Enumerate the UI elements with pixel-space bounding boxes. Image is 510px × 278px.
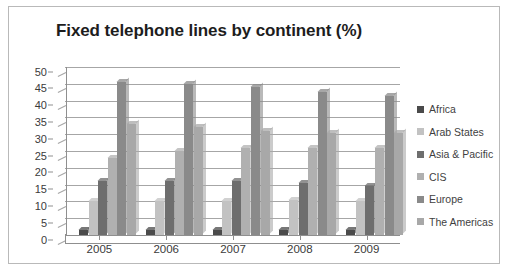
legend-swatch-icon xyxy=(417,218,424,225)
bar-face xyxy=(108,158,117,235)
legend-label: The Americas xyxy=(429,216,493,228)
bar-face xyxy=(175,151,184,235)
legend-label: Africa xyxy=(429,103,456,115)
bar-face xyxy=(146,230,155,235)
legend-item[interactable]: Arab States xyxy=(417,126,509,138)
y-tick-label: 25 xyxy=(13,150,47,162)
wall-segment xyxy=(58,122,67,127)
y-tick-mark xyxy=(48,205,53,206)
bar[interactable] xyxy=(289,200,298,235)
legend-item[interactable]: CIS xyxy=(417,171,509,183)
y-tick-mark xyxy=(48,239,53,240)
bar-group xyxy=(266,67,333,235)
bar[interactable] xyxy=(346,230,355,235)
y-tick-label: 20 xyxy=(13,166,47,178)
y-tick-mark xyxy=(48,71,53,72)
y-tick-mark xyxy=(48,155,53,156)
x-tick-mark xyxy=(300,235,301,240)
chart-title: Fixed telephone lines by continent (%) xyxy=(9,21,409,41)
bar[interactable] xyxy=(175,151,184,235)
chart-legend: AfricaArab StatesAsia & PacificCISEurope… xyxy=(417,103,509,238)
x-tick-label: 2007 xyxy=(220,243,246,255)
bar-face xyxy=(232,181,241,235)
y-tick-label: 5 xyxy=(13,217,47,229)
legend-swatch-icon xyxy=(417,196,424,203)
bar-face xyxy=(289,200,298,235)
bar-group xyxy=(200,67,267,235)
y-tick-label: 50 xyxy=(13,66,47,78)
legend-swatch-icon xyxy=(417,151,424,158)
x-tick-mark xyxy=(166,235,167,240)
legend-item[interactable]: Africa xyxy=(417,103,509,115)
bar[interactable] xyxy=(308,148,317,235)
bar[interactable] xyxy=(213,230,222,235)
bar-face xyxy=(89,201,98,235)
y-tick-label: 30 xyxy=(13,133,47,145)
bar[interactable] xyxy=(375,148,384,235)
bar[interactable] xyxy=(165,181,174,235)
bar[interactable] xyxy=(299,183,308,235)
bar[interactable] xyxy=(394,133,403,235)
bar-face xyxy=(385,96,394,235)
y-tick-label: 15 xyxy=(13,183,47,195)
plot-area xyxy=(57,67,400,235)
legend-swatch-icon xyxy=(417,173,424,180)
legend-item[interactable]: The Americas xyxy=(417,216,509,228)
legend-label: CIS xyxy=(429,171,447,183)
bar[interactable] xyxy=(184,84,193,235)
y-tick-label: 10 xyxy=(13,200,47,212)
x-tick-label: 2006 xyxy=(153,243,179,255)
wall-segment xyxy=(58,189,67,194)
bar[interactable] xyxy=(155,201,164,235)
legend-item[interactable]: Asia & Pacific xyxy=(417,148,509,160)
y-tick-mark xyxy=(48,121,53,122)
bar[interactable] xyxy=(365,186,374,235)
bar[interactable] xyxy=(108,158,117,235)
bar-face xyxy=(222,201,231,235)
bar[interactable] xyxy=(318,92,327,235)
bar[interactable] xyxy=(79,230,88,235)
bar-face xyxy=(299,183,308,235)
y-axis: 05101520253035404550 xyxy=(9,67,53,235)
wall-segment xyxy=(58,88,67,93)
y-tick-label: 0 xyxy=(13,234,47,246)
y-tick-label: 40 xyxy=(13,99,47,111)
bar-face xyxy=(394,133,403,235)
y-tick-mark xyxy=(48,138,53,139)
bar[interactable] xyxy=(117,82,126,235)
legend-swatch-icon xyxy=(417,106,424,113)
bar[interactable] xyxy=(89,201,98,235)
bar[interactable] xyxy=(279,230,288,235)
bar-face xyxy=(165,181,174,235)
x-tick-mark xyxy=(233,235,234,240)
chart-frame: Fixed telephone lines by continent (%) 0… xyxy=(8,6,500,264)
bar-face xyxy=(308,148,317,235)
bar[interactable] xyxy=(356,201,365,235)
legend-label: Europe xyxy=(429,193,463,205)
y-tick-label: 35 xyxy=(13,116,47,128)
y-tick-label: 45 xyxy=(13,82,47,94)
legend-label: Arab States xyxy=(429,126,484,138)
bar-side xyxy=(403,128,406,233)
bar-face xyxy=(318,92,327,235)
y-tick-mark xyxy=(48,88,53,89)
x-tick-label: 2008 xyxy=(287,243,313,255)
bar[interactable] xyxy=(251,87,260,235)
bar-face xyxy=(184,84,193,235)
bar-group xyxy=(66,67,133,235)
bar[interactable] xyxy=(222,201,231,235)
wall-segment xyxy=(58,206,67,211)
bar[interactable] xyxy=(146,230,155,235)
legend-item[interactable]: Europe xyxy=(417,193,509,205)
bar[interactable] xyxy=(241,148,250,235)
bar-group xyxy=(333,67,400,235)
bar[interactable] xyxy=(232,181,241,235)
x-tick-mark xyxy=(99,235,100,240)
legend-swatch-icon xyxy=(417,128,424,135)
y-tick-mark xyxy=(48,105,53,106)
bar[interactable] xyxy=(98,181,107,235)
y-tick-mark xyxy=(48,172,53,173)
bar[interactable] xyxy=(385,96,394,235)
y-tick-mark xyxy=(48,189,53,190)
bar-face xyxy=(251,87,260,235)
